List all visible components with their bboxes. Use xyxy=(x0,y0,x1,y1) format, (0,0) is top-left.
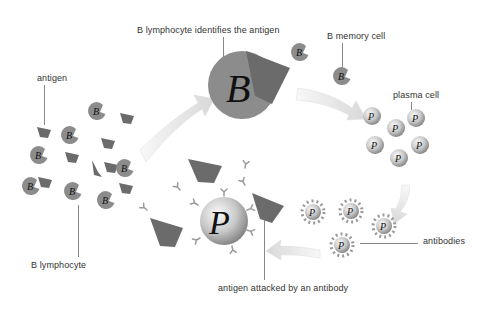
leader-identifies xyxy=(223,37,224,57)
svg-text:B: B xyxy=(69,186,75,197)
svg-text:P: P xyxy=(391,123,398,134)
leader-antigen-attacked xyxy=(264,220,265,280)
label-memory-cell: B memory cell xyxy=(327,31,385,41)
leader-antigen xyxy=(44,85,45,125)
svg-text:P: P xyxy=(346,206,353,217)
label-identifies: B lymphocyte identifies the antigen xyxy=(137,25,280,35)
arrow-to-identify xyxy=(140,95,214,162)
b-lymphocyte-large: B xyxy=(208,51,290,119)
svg-text:P: P xyxy=(394,153,401,164)
svg-text:P: P xyxy=(415,140,422,151)
svg-text:P: P xyxy=(379,221,386,232)
svg-text:P: P xyxy=(411,113,418,124)
antibody-attack-scene: P xyxy=(140,159,284,253)
svg-text:P: P xyxy=(367,111,374,122)
label-b-lymphocyte: B lymphocyte xyxy=(31,260,86,270)
arrow-to-plasma xyxy=(296,88,366,120)
arrow-to-antibodies xyxy=(391,185,410,224)
svg-text:P: P xyxy=(208,204,230,241)
immune-response-diagram: B B B B B B B B B B P P P P P P P P xyxy=(0,0,488,310)
leader-memory-cell xyxy=(342,43,343,67)
leader-b-lymphocyte xyxy=(78,205,79,257)
arrow-to-attack xyxy=(266,240,320,260)
svg-text:B: B xyxy=(35,150,41,161)
svg-text:P: P xyxy=(308,207,315,218)
leader-plasma-cell xyxy=(411,102,412,110)
antigen-cluster xyxy=(37,113,134,194)
label-antibodies: antibodies xyxy=(423,236,465,246)
svg-text:B: B xyxy=(226,66,250,111)
svg-text:P: P xyxy=(337,240,344,251)
svg-text:P: P xyxy=(370,140,377,151)
svg-text:B: B xyxy=(102,195,108,206)
svg-text:B: B xyxy=(296,47,302,58)
label-plasma-cell: plasma cell xyxy=(393,90,439,100)
svg-text:B: B xyxy=(338,71,344,82)
label-antigen-attacked: antigen attacked by an antibody xyxy=(218,283,348,293)
svg-text:B: B xyxy=(93,106,99,117)
svg-text:B: B xyxy=(121,163,127,174)
svg-text:B: B xyxy=(27,181,33,192)
label-antigen: antigen xyxy=(37,73,67,83)
leader-antibodies xyxy=(360,243,418,244)
svg-text:B: B xyxy=(66,130,72,141)
antibody-producing-cells: P P P P xyxy=(302,200,395,256)
plasma-cell-cluster: P P P P P P xyxy=(363,107,429,167)
